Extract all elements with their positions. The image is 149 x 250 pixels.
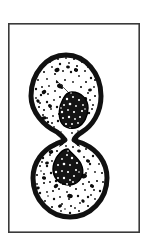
cell-division-diagram: [0, 0, 149, 250]
illustration-figure: dividing cell in cytokinesis: [0, 0, 149, 250]
